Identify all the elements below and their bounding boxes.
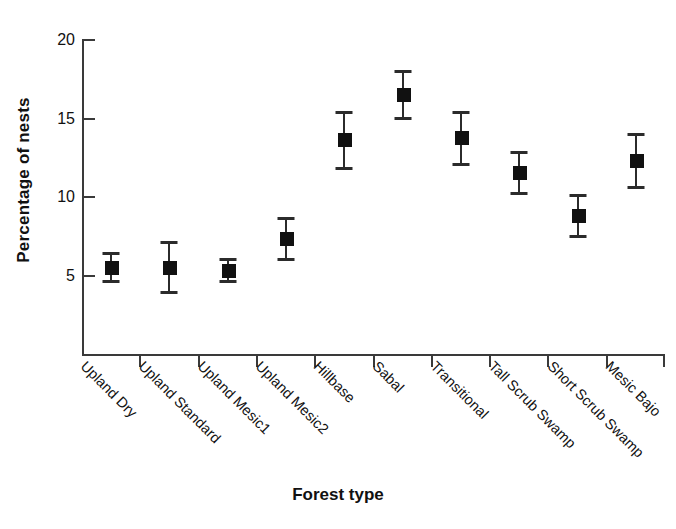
error-bar-cap-lower (103, 280, 120, 283)
x-axis-category-label: Mesic Bajo (603, 358, 664, 419)
data-point (266, 40, 306, 354)
data-point-marker (163, 261, 177, 275)
data-point (558, 40, 598, 354)
data-point-marker (513, 166, 527, 180)
data-point (499, 40, 539, 354)
data-point-marker (280, 232, 294, 246)
x-axis-category-label: Sabal (369, 358, 407, 396)
y-axis-tick-label: 20 (57, 31, 75, 49)
y-axis-tick-label: 10 (57, 188, 75, 206)
data-point (91, 40, 131, 354)
data-point-marker (338, 133, 352, 147)
x-axis-category-label: Short Scrub Swamp (544, 358, 646, 460)
error-bar-cap-lower (161, 291, 178, 294)
error-bar-cap-lower (569, 235, 586, 238)
error-bar-cap-upper (278, 217, 295, 220)
error-bar-cap-upper (627, 133, 644, 136)
y-axis-tick-label: 15 (57, 110, 75, 128)
data-point-marker (105, 261, 119, 275)
data-point-marker (455, 131, 469, 145)
plot-area: 5101520 (82, 40, 665, 354)
data-point-marker (572, 209, 586, 223)
data-point-marker (397, 88, 411, 102)
data-point (208, 40, 248, 354)
error-bar-cap-lower (394, 117, 411, 120)
data-point (383, 40, 423, 354)
error-bar-cap-upper (103, 252, 120, 255)
x-axis-category-label: Hillbase (311, 358, 359, 406)
error-bar-cap-upper (394, 70, 411, 73)
error-bar-cap-lower (511, 192, 528, 195)
data-point (324, 40, 364, 354)
data-point-marker (630, 154, 644, 168)
chart-figure: Percentage of nests 5101520 Upland DryUp… (0, 0, 676, 529)
error-bar-cap-lower (336, 167, 353, 170)
y-axis-title-text: Percentage of nests (14, 97, 34, 262)
error-bar-cap-upper (569, 194, 586, 197)
error-bar-cap-lower (219, 280, 236, 283)
error-bar-cap-upper (219, 258, 236, 261)
y-axis-tick-label: 5 (66, 267, 75, 285)
error-bar-cap-lower (452, 163, 469, 166)
data-point (616, 40, 656, 354)
x-axis-category-labels: Upland DryUpland StandardUpland Mesic1Up… (82, 358, 665, 478)
x-axis-title: Forest type (0, 485, 676, 505)
x-axis-category-label: Transitional (428, 358, 492, 422)
error-bar-cap-upper (336, 111, 353, 114)
error-bar-cap-upper (511, 151, 528, 154)
y-axis-title: Percentage of nests (10, 0, 38, 360)
error-bar-cap-upper (452, 111, 469, 114)
error-bar-cap-upper (161, 241, 178, 244)
x-axis-category-label: Upland Dry (78, 358, 141, 421)
data-point (441, 40, 481, 354)
data-point-marker (222, 264, 236, 278)
data-point (149, 40, 189, 354)
error-bar-cap-lower (278, 258, 295, 261)
error-bar-cap-lower (627, 186, 644, 189)
